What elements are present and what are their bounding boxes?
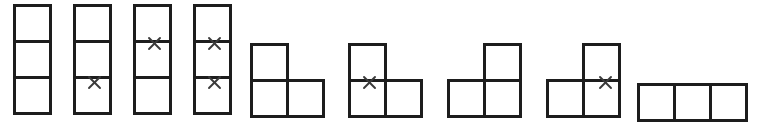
tromino-figure (0, 0, 757, 134)
tromino-cell (709, 83, 748, 122)
tromino-cell (286, 79, 325, 118)
tromino-cell (447, 79, 486, 118)
tromino-cell (13, 4, 52, 43)
tromino-cell (384, 79, 423, 118)
tromino-cell (133, 76, 172, 115)
tromino-cell (193, 76, 232, 115)
tromino-cell (483, 43, 522, 82)
tromino-cell (73, 40, 112, 79)
tromino-cell (133, 40, 172, 79)
tromino-cell (250, 43, 289, 82)
tromino-cell (250, 79, 289, 118)
tromino-cell (673, 83, 712, 122)
tromino-cell (348, 79, 387, 118)
tromino-cell (582, 43, 621, 82)
tromino-cell (582, 79, 621, 118)
tromino-cell (73, 4, 112, 43)
tromino-cell (546, 79, 585, 118)
tromino-cell (348, 43, 387, 82)
tromino-cell (13, 40, 52, 79)
tromino-cell (13, 76, 52, 115)
tromino-cell (637, 83, 676, 122)
tromino-cell (73, 76, 112, 115)
tromino-cell (133, 4, 172, 43)
tromino-cell (193, 40, 232, 79)
tromino-cell (193, 4, 232, 43)
tromino-cell (483, 79, 522, 118)
